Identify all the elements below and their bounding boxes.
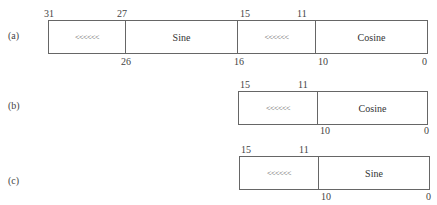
bit-11: 11 xyxy=(299,145,309,155)
bit-15: 15 xyxy=(241,145,251,155)
register-b: <<<<<< Cosine xyxy=(238,91,428,125)
field-shift-lower: <<<<<< xyxy=(237,21,315,53)
bit-15: 15 xyxy=(240,9,250,19)
bit-27: 27 xyxy=(117,9,127,19)
bit-15: 15 xyxy=(240,80,250,90)
field-cosine: Cosine xyxy=(315,21,427,53)
row-a-label: (a) xyxy=(8,30,19,41)
bit-0: 0 xyxy=(422,57,427,67)
register-c: <<<<<< Sine xyxy=(239,156,430,190)
bit-11: 11 xyxy=(297,9,307,19)
bit-0: 0 xyxy=(424,126,429,136)
bit-10: 10 xyxy=(320,126,330,136)
bit-10: 10 xyxy=(321,192,331,202)
field-sine: Sine xyxy=(318,157,429,189)
bit-26: 26 xyxy=(121,57,131,67)
bit-10: 10 xyxy=(318,57,328,67)
field-shift: <<<<<< xyxy=(239,92,317,124)
register-a: <<<<<< Sine <<<<<< Cosine xyxy=(48,20,428,54)
bit-0: 0 xyxy=(426,192,431,202)
bit-31: 31 xyxy=(44,9,54,19)
row-b-label: (b) xyxy=(8,100,20,111)
row-c-label: (c) xyxy=(8,175,19,186)
bit-11: 11 xyxy=(298,80,308,90)
field-cosine: Cosine xyxy=(317,92,427,124)
field-shift: <<<<<< xyxy=(240,157,318,189)
field-shift-upper: <<<<<< xyxy=(49,21,125,53)
bit-16: 16 xyxy=(234,57,244,67)
field-sine: Sine xyxy=(125,21,237,53)
